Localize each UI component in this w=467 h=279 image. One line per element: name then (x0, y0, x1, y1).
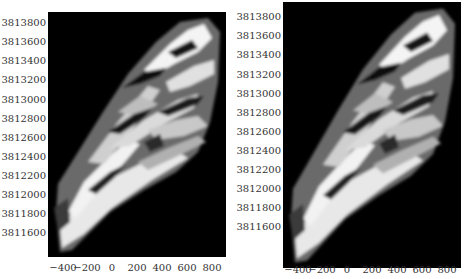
right-raster-plot (283, 2, 461, 268)
left-terrain-image (48, 12, 226, 257)
y-tick-label: 3812000 (0, 190, 46, 200)
y-tick-label: 3812200 (235, 165, 281, 175)
y-tick-label: 3813200 (235, 70, 281, 80)
y-tick-label: 3813200 (0, 75, 46, 85)
y-tick-label: 3813000 (0, 95, 46, 105)
y-tick-label: 3812400 (235, 146, 281, 156)
y-tick-label: 3812000 (235, 184, 281, 194)
right-terrain-image (283, 2, 461, 268)
y-tick-label: 3813600 (235, 31, 281, 41)
x-tick-label: 800 (197, 263, 227, 273)
y-tick-label: 3811800 (0, 209, 46, 219)
y-tick-label: 3813800 (0, 18, 46, 28)
y-tick-label: 3813400 (235, 50, 281, 60)
left-chart-panel: 3813800 3813600 3813400 3813200 3813000 … (0, 0, 235, 279)
y-tick-label: 3813400 (0, 56, 46, 66)
y-tick-label: 3812400 (0, 152, 46, 162)
y-tick-label: 3812800 (0, 114, 46, 124)
y-tick-label: 3812800 (235, 108, 281, 118)
y-tick-label: 3811600 (235, 222, 281, 232)
y-tick-label: 3813800 (235, 12, 281, 22)
y-tick-label: 3813600 (0, 37, 46, 47)
y-tick-label: 3811800 (235, 203, 281, 213)
y-tick-label: 3812600 (235, 127, 281, 137)
y-tick-label: 3813000 (235, 89, 281, 99)
y-tick-label: 3812600 (0, 133, 46, 143)
x-tick-label: 800 (432, 265, 462, 275)
y-tick-label: 3812200 (0, 171, 46, 181)
right-chart-panel: 3813800 3813600 3813400 3813200 3813000 … (235, 0, 467, 279)
left-raster-plot (48, 12, 226, 257)
y-tick-label: 3811600 (0, 228, 46, 238)
